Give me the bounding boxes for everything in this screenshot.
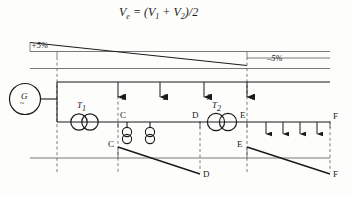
load-unit-2-lower-winding <box>145 134 154 143</box>
transformer-1-subscript: 1 <box>82 104 86 113</box>
transformer-2-subscript: 2 <box>217 104 221 113</box>
upper-limit-label: +5% <box>31 41 48 50</box>
diagram-canvas <box>0 0 351 197</box>
transformer-2-label: T2 <box>212 101 221 113</box>
profile-node-label-e: E <box>237 140 243 149</box>
formula-plus: + <box>159 5 173 19</box>
generator-ac-icon: ~ <box>20 100 24 108</box>
feeder-load-unit-1 <box>122 122 131 144</box>
bus-node-label-e: E <box>240 111 246 120</box>
load-arrow-label-4: 4 <box>250 93 255 102</box>
lower-voltage-profile <box>30 147 330 174</box>
formula-equals: = ( <box>130 5 148 19</box>
load-arrow-label-2: 2 <box>163 93 168 102</box>
profile-node-label-c: C <box>108 140 114 149</box>
lower-limit-label: –5% <box>267 54 283 63</box>
bus-node-label-c: C <box>120 111 126 120</box>
network-single-line <box>10 82 331 144</box>
page-title: Ve = (V1 + V2)/2 <box>119 6 198 21</box>
drop-line-e-f <box>247 147 330 174</box>
transformer-1-label: T1 <box>77 101 86 113</box>
profile-node-label-f: F <box>333 170 338 179</box>
bus-node-label-d: D <box>192 111 199 120</box>
formula-tail: )/2 <box>185 5 198 19</box>
voltage-profile-diagram: Ve = (V1 + V2)/2 +5% –5% G ~ T1 T2 1 2 3… <box>0 0 351 197</box>
top-voltage-band <box>30 43 330 69</box>
feeder-load-unit-2 <box>145 122 154 144</box>
voltage-characteristic-line <box>30 43 247 66</box>
load-unit-1-lower-winding <box>122 134 131 143</box>
bus-node-label-f: F <box>333 112 338 121</box>
drop-line-c-d <box>118 147 200 174</box>
load-arrow-label-3: 3 <box>207 93 212 102</box>
formula-v2: V <box>173 5 180 19</box>
load-arrow-label-1: 1 <box>121 93 126 102</box>
profile-node-label-d: D <box>203 170 210 179</box>
